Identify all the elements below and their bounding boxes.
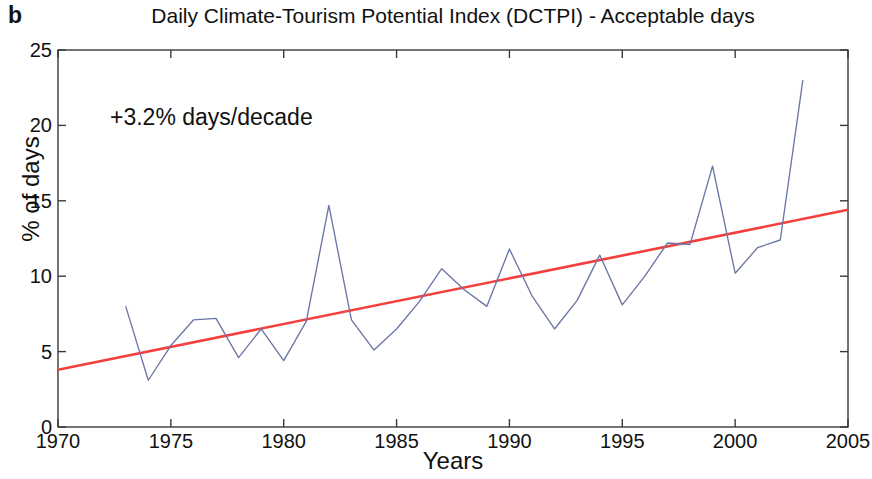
figure-panel: b Daily Climate-Tourism Potential Index …: [0, 0, 872, 479]
plot-area: [0, 0, 872, 479]
axis-tick-marks: [58, 50, 848, 427]
trend-line-series: [58, 210, 848, 370]
axes-frame: [58, 50, 848, 427]
